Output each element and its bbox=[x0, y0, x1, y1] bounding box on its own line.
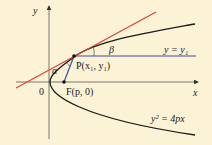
horizontal-line-label: y = y₁ bbox=[163, 44, 188, 55]
alpha-label: α bbox=[52, 65, 58, 76]
focus-point bbox=[62, 80, 66, 84]
tangent-line bbox=[16, 12, 156, 88]
alpha-arc bbox=[66, 62, 70, 66]
focus-label: F(p, 0) bbox=[66, 86, 93, 98]
point-P bbox=[72, 54, 76, 58]
parabola-reflection-diagram: y x 0 P(x₁, y₁) F(p, 0) y = y₁ α β y² = … bbox=[0, 0, 212, 145]
beta-label: β bbox=[108, 44, 114, 55]
equation-label: y² = 4px bbox=[150, 113, 185, 124]
x-axis-label: x bbox=[192, 87, 198, 98]
point-P-label: P(x₁, y₁) bbox=[76, 60, 110, 72]
y-axis-label: y bbox=[32, 5, 38, 16]
beta-arc bbox=[93, 46, 94, 56]
origin-label: 0 bbox=[39, 86, 44, 97]
